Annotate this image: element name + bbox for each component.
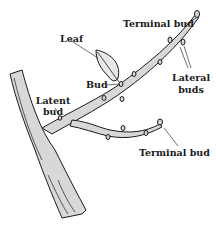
label-terminal-bud-bottom: Terminal bud <box>139 148 210 158</box>
label-bud: Bud <box>86 80 108 90</box>
label-leaf: Leaf <box>60 34 83 44</box>
label-lateral-buds-line2: buds <box>170 85 212 95</box>
label-latent-bud-line1: Latent <box>35 96 71 106</box>
trunk <box>10 70 86 218</box>
branch-illustration <box>0 0 216 228</box>
lower-branch <box>70 120 162 138</box>
label-latent-bud-line2: bud <box>35 107 71 117</box>
label-lateral-buds-line1: Lateral <box>170 73 212 83</box>
label-terminal-bud-top: Terminal bud <box>123 19 194 29</box>
